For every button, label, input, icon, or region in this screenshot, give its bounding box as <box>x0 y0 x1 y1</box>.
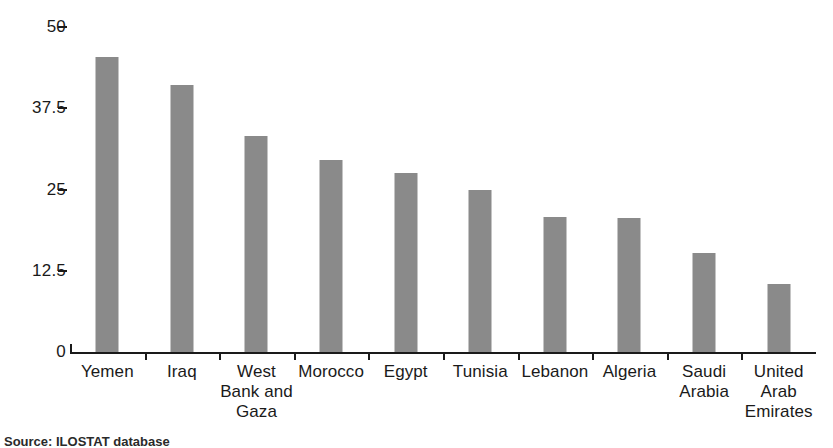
y-axis-tick-mark <box>58 270 67 272</box>
y-axis-tick-label: 0 <box>0 343 66 360</box>
x-axis-label-line: United <box>741 362 816 382</box>
bar-slot <box>70 20 145 352</box>
x-axis-label-line: Saudi <box>667 362 742 382</box>
y-axis-tick-mark <box>58 189 67 191</box>
bar <box>543 217 566 352</box>
bar <box>767 284 790 352</box>
x-axis-label: Lebanon <box>518 362 593 382</box>
x-axis-tick-mark <box>145 352 147 360</box>
x-axis-label: SaudiArabia <box>667 362 742 402</box>
x-axis-label-line: Egypt <box>368 362 443 382</box>
x-axis-label-line: Morocco <box>294 362 369 382</box>
bar <box>469 190 492 352</box>
y-axis-tick-mark <box>58 26 67 28</box>
bar <box>320 160 343 352</box>
y-axis-tick-label: 25 <box>0 181 66 198</box>
bar-chart: 012.52537.550 YemenIraqWestBank andGazaM… <box>0 0 833 448</box>
x-axis-tick-mark <box>741 352 743 360</box>
bar <box>618 218 641 352</box>
bar-slot <box>518 20 593 352</box>
x-axis-tick-mark <box>368 352 370 360</box>
x-axis-tick-mark <box>219 352 221 360</box>
x-axis-tick-mark <box>592 352 594 360</box>
x-axis-label-line: Algeria <box>592 362 667 382</box>
bar-slot <box>741 20 816 352</box>
x-axis-label-line: West <box>219 362 294 382</box>
bar-slot <box>368 20 443 352</box>
x-axis-label-line: Arab <box>741 382 816 402</box>
x-axis-label: Yemen <box>70 362 145 382</box>
bar-slot <box>443 20 518 352</box>
bar-slot <box>667 20 742 352</box>
y-axis-tick-label: 37.5 <box>0 99 66 116</box>
x-axis-tick-mark <box>518 352 520 360</box>
x-axis-label: UnitedArabEmirates <box>741 362 816 422</box>
bar-slot <box>145 20 220 352</box>
x-axis-label: Tunisia <box>443 362 518 382</box>
x-axis-label-line: Emirates <box>741 402 816 422</box>
x-axis-label: Iraq <box>145 362 220 382</box>
x-axis-label-line: Yemen <box>70 362 145 382</box>
x-axis-label-line: Iraq <box>145 362 220 382</box>
x-axis-label: Egypt <box>368 362 443 382</box>
source-note: Source: ILOSTAT database <box>4 434 170 448</box>
x-axis-tick-mark <box>443 352 445 360</box>
x-axis-tick-mark <box>667 352 669 360</box>
y-axis-tick-label: 50 <box>0 18 66 35</box>
bar <box>693 253 716 352</box>
x-axis-label-line: Lebanon <box>518 362 593 382</box>
bar-slot <box>219 20 294 352</box>
x-axis-tick-mark <box>294 352 296 360</box>
bar-slot <box>294 20 369 352</box>
bar <box>96 57 119 352</box>
y-axis-tick-label: 12.5 <box>0 262 66 279</box>
x-axis-label: Algeria <box>592 362 667 382</box>
bar <box>170 85 193 352</box>
bars-layer <box>70 20 816 352</box>
x-axis-labels: YemenIraqWestBank andGazaMoroccoEgyptTun… <box>70 362 816 442</box>
x-axis-label-line: Gaza <box>219 402 294 422</box>
x-axis-label: Morocco <box>294 362 369 382</box>
bar-slot <box>592 20 667 352</box>
x-axis-label-line: Bank and <box>219 382 294 402</box>
y-axis-tick-mark <box>58 107 67 109</box>
bar <box>394 173 417 352</box>
bar <box>245 136 268 352</box>
x-axis-label-line: Arabia <box>667 382 742 402</box>
x-axis-label-line: Tunisia <box>443 362 518 382</box>
x-axis-label: WestBank andGaza <box>219 362 294 422</box>
